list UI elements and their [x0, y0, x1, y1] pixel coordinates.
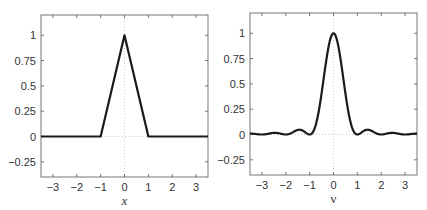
y-tick-label: 1: [30, 29, 36, 41]
panel-triangle: −3−2−10123−0.2500.250.50.751x: [8, 15, 208, 208]
y-tick-label: 0: [239, 129, 245, 141]
y-tick-label: 0.75: [224, 53, 245, 65]
x-axis-label: ν: [331, 191, 337, 206]
x-tick-label: 1: [354, 179, 360, 191]
x-tick-label: 2: [169, 181, 175, 193]
x-tick-label: −3: [256, 179, 269, 191]
x-tick-label: −1: [303, 179, 316, 191]
series-line-sinc-2-nu-: [250, 33, 417, 134]
x-tick-label: 0: [330, 179, 336, 191]
x-axis-label: x: [121, 193, 128, 208]
y-tick-label: −0.25: [217, 154, 245, 166]
x-tick-label: 1: [145, 181, 151, 193]
series-line-lambda-x-: [41, 35, 208, 136]
chart-canvas: −3−2−10123−0.2500.250.50.751x −3−2−10123…: [0, 0, 427, 210]
panel-sinc-squared: −3−2−10123−0.2500.250.50.751ν: [217, 13, 417, 206]
x-tick-label: −2: [71, 181, 84, 193]
y-tick-label: 0.25: [15, 105, 36, 117]
y-tick-label: 0.5: [21, 80, 36, 92]
x-tick-label: 2: [378, 179, 384, 191]
y-tick-label: 0: [30, 131, 36, 143]
y-tick-label: −0.25: [8, 156, 36, 168]
x-tick-label: 3: [193, 181, 199, 193]
y-tick-label: 1: [239, 27, 245, 39]
y-tick-label: 0.75: [15, 55, 36, 67]
x-tick-label: −1: [94, 181, 107, 193]
x-tick-label: 0: [121, 181, 127, 193]
x-tick-label: −3: [47, 181, 60, 193]
y-tick-label: 0.5: [230, 78, 245, 90]
y-tick-label: 0.25: [224, 103, 245, 115]
x-tick-label: 3: [402, 179, 408, 191]
x-tick-label: −2: [280, 179, 293, 191]
